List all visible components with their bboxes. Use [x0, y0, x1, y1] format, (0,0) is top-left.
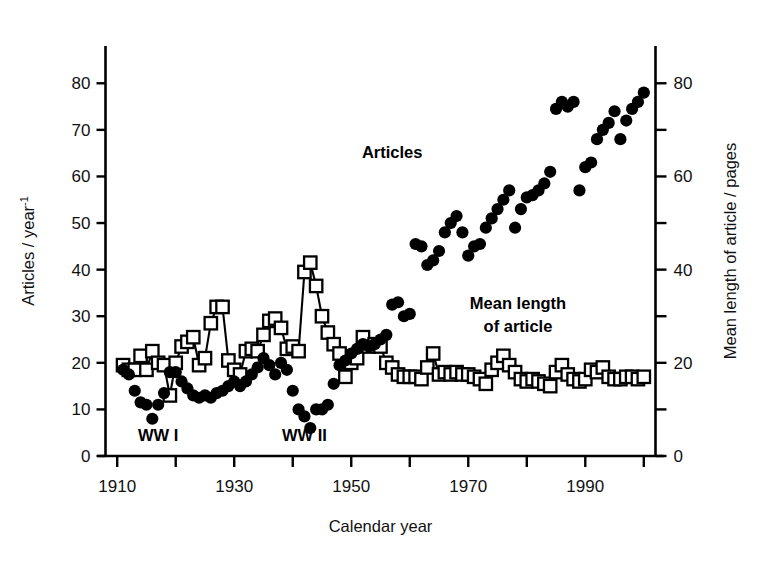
series-connector-segment — [195, 344, 198, 359]
right-tick-label: 20 — [674, 354, 693, 373]
right-tick-label: 40 — [674, 261, 693, 280]
series-connector-segment — [283, 334, 285, 342]
series-connector-segment — [223, 313, 227, 354]
articles-marker — [544, 166, 556, 178]
left-tick-label: 50 — [72, 214, 91, 233]
left-tick-label: 10 — [72, 400, 91, 419]
left-tick-label: 0 — [81, 447, 90, 466]
articles-marker — [146, 413, 158, 425]
articles-marker — [298, 410, 310, 422]
articles-marker — [328, 378, 340, 390]
series-label-mean-length-line1: Mean length — [470, 294, 566, 312]
right-tick-label: 80 — [674, 74, 693, 93]
mean-length-marker — [339, 371, 351, 383]
articles-marker — [450, 210, 462, 222]
series-connector-segment — [435, 360, 437, 368]
articles-marker — [503, 184, 515, 196]
series-connector-segment — [206, 330, 210, 352]
mean-length-marker — [216, 301, 228, 313]
articles-marker — [573, 184, 585, 196]
mean-length-marker — [199, 352, 211, 364]
right-tick-label: 0 — [674, 447, 683, 466]
articles-marker — [603, 117, 615, 129]
articles-marker — [281, 364, 293, 376]
x-axis-tick-labels: 19101930195019701990 — [98, 477, 604, 496]
figure-container: 01020304050607080 020406080 191019301950… — [0, 0, 761, 580]
articles-marker — [509, 222, 521, 234]
series-label-articles: Articles — [362, 143, 423, 161]
articles-marker — [392, 296, 404, 308]
mean-length-marker — [140, 364, 152, 376]
x-tick-label: 1970 — [449, 477, 487, 496]
left-tick-label: 80 — [72, 74, 91, 93]
left-tick-label: 70 — [72, 121, 91, 140]
series-connector-segment — [242, 358, 245, 369]
articles-marker — [585, 156, 597, 168]
articles-marker — [620, 114, 632, 126]
x-tick-label: 1910 — [98, 477, 136, 496]
x-tick-label: 1990 — [566, 477, 604, 496]
articles-marker — [415, 240, 427, 252]
mean-length-marker — [304, 256, 316, 268]
x-tick-label: 1930 — [215, 477, 253, 496]
mean-length-marker — [187, 331, 199, 343]
axes-group — [97, 46, 667, 467]
svg-text:Articles / year-1: Articles / year-1 — [18, 196, 37, 306]
articles-marker — [269, 368, 281, 380]
articles-marker — [538, 177, 550, 189]
mean-length-marker — [544, 380, 556, 392]
mean-length-marker — [292, 345, 304, 357]
articles-marker — [456, 226, 468, 238]
articles-marker — [129, 385, 141, 397]
articles-marker — [152, 399, 164, 411]
articles-marker — [567, 96, 579, 108]
articles-marker — [158, 387, 170, 399]
articles-marker — [614, 133, 626, 145]
x-tick-label: 1950 — [332, 477, 370, 496]
left-tick-label: 60 — [72, 167, 91, 186]
series-label-mean-length-line2: of article — [484, 317, 553, 335]
articles-marker — [515, 203, 527, 215]
mean-length-marker — [257, 329, 269, 341]
articles-marker — [380, 329, 392, 341]
series-connector-segment — [299, 279, 304, 345]
annotation-ww1: WW I — [138, 426, 178, 444]
articles-marker — [287, 385, 299, 397]
mean-length-marker — [421, 361, 433, 373]
left-tick-label: 30 — [72, 307, 91, 326]
mean-length-marker — [427, 347, 439, 359]
articles-marker — [140, 399, 152, 411]
articles-marker — [638, 86, 650, 98]
articles-marker — [608, 105, 620, 117]
right-axis-tick-labels: 020406080 — [674, 74, 693, 466]
mean-length-marker — [316, 310, 328, 322]
left-tick-label: 40 — [72, 261, 91, 280]
scatter-chart: 01020304050607080 020406080 191019301950… — [0, 0, 761, 580]
right-axis-title: Mean length of article / pages — [721, 143, 739, 359]
articles-marker — [404, 308, 416, 320]
annotation-ww2: WW II — [282, 426, 327, 444]
mean-length-marker — [480, 378, 492, 390]
mean-length-marker — [275, 322, 287, 334]
left-axis-title: Articles / year-1 — [18, 196, 37, 306]
x-axis-title: Calendar year — [329, 517, 433, 535]
articles-marker — [474, 238, 486, 250]
series-mean-length-markers — [117, 256, 650, 401]
svg-text:Mean length of article / pages: Mean length of article / pages — [721, 143, 739, 359]
mean-length-marker — [310, 280, 322, 292]
left-axis-tick-labels: 01020304050607080 — [72, 74, 91, 466]
mean-length-marker — [638, 371, 650, 383]
right-tick-label: 60 — [674, 167, 693, 186]
articles-marker — [433, 245, 445, 257]
mean-length-marker — [205, 317, 217, 329]
left-tick-label: 20 — [72, 354, 91, 373]
mean-length-marker — [134, 350, 146, 362]
series-connector-segment — [312, 269, 315, 280]
articles-marker — [322, 399, 334, 411]
articles-marker — [123, 368, 135, 380]
series-connector-segment — [317, 292, 320, 309]
